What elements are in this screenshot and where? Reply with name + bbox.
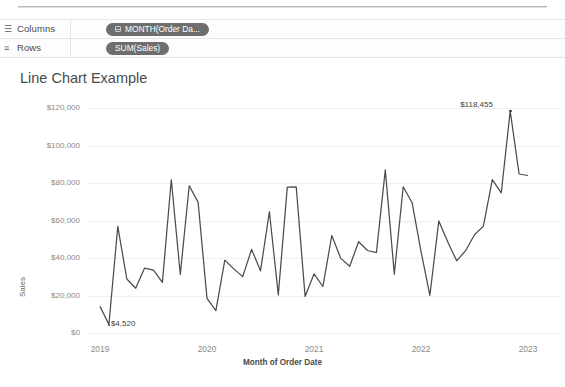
rows-shelf[interactable]: ≡ Rows SUM(Sales) xyxy=(0,39,565,58)
rows-shelf-label: Rows xyxy=(17,42,41,53)
sales-line xyxy=(100,111,528,325)
shelf-divider xyxy=(70,20,71,38)
x-axis-title: Month of Order Date xyxy=(0,358,565,367)
calendar-icon xyxy=(115,26,121,32)
line-chart[interactable]: Sales $0$20,000$40,000$60,000$80,000$100… xyxy=(0,92,565,387)
columns-icon: ☰ xyxy=(4,24,15,34)
columns-shelf-label: Columns xyxy=(17,23,55,34)
pill-sum-sales-label: SUM(Sales) xyxy=(115,42,160,55)
shelf-area: ☰ Columns MONTH(Order Da... ≡ Rows SUM(S… xyxy=(0,19,565,58)
pill-month-order-date-label: MONTH(Order Da... xyxy=(125,23,200,36)
rows-icon: ≡ xyxy=(4,43,15,53)
top-divider-soft xyxy=(18,7,547,8)
columns-shelf[interactable]: ☰ Columns MONTH(Order Da... xyxy=(0,19,565,39)
shelf-divider xyxy=(70,39,71,57)
pill-sum-sales[interactable]: SUM(Sales) xyxy=(106,42,169,55)
maximum-label: $118,455 xyxy=(460,100,493,109)
page-title: Line Chart Example xyxy=(20,70,147,86)
plot-area xyxy=(0,92,565,387)
pill-month-order-date[interactable]: MONTH(Order Da... xyxy=(106,23,209,36)
minimum-label: $4,520 xyxy=(111,319,135,328)
